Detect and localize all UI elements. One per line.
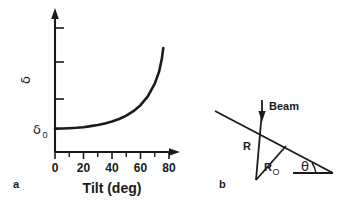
delta-zero-subscript: 0 bbox=[42, 130, 47, 140]
y-axis bbox=[51, 8, 59, 152]
y-axis-title: δ bbox=[18, 76, 33, 84]
y-axis-ticks bbox=[55, 28, 64, 99]
x-tick-label-60: 60 bbox=[134, 161, 148, 175]
delta-zero-label: δ 0 bbox=[33, 122, 47, 140]
beam-label: Beam bbox=[269, 100, 299, 112]
x-axis-title: Tilt (deg) bbox=[83, 180, 142, 196]
y-axis-arrowhead bbox=[51, 8, 59, 19]
radius-label: R bbox=[243, 140, 251, 152]
specimen-tilt-line bbox=[215, 111, 333, 173]
panel-label-a: a bbox=[13, 178, 19, 190]
delta-zero-symbol: δ bbox=[33, 122, 41, 137]
panel-b-diagram: Beam R R O θ bbox=[190, 0, 338, 204]
diagram-svg: Beam R R O θ bbox=[190, 0, 338, 204]
x-tick-label-0: 0 bbox=[52, 161, 59, 175]
angle-label-theta: θ bbox=[301, 159, 309, 174]
vertical-radius-line bbox=[256, 111, 262, 180]
panel-label-b: b bbox=[219, 178, 226, 190]
x-tick-label-40: 40 bbox=[105, 161, 119, 175]
x-axis-arrowhead bbox=[169, 148, 180, 156]
radius-zero-label: R O bbox=[264, 161, 279, 177]
panel-a-chart: 0 20 40 60 80 Tilt (deg) δ δ 0 bbox=[0, 0, 190, 204]
chart-svg: 0 20 40 60 80 Tilt (deg) δ δ 0 bbox=[0, 0, 190, 204]
x-tick-label-80: 80 bbox=[162, 161, 176, 175]
data-curve-delta-vs-tilt bbox=[55, 48, 163, 129]
figure-root: 0 20 40 60 80 Tilt (deg) δ δ 0 bbox=[0, 0, 338, 204]
radius-zero-subscript: O bbox=[272, 167, 279, 177]
radius-zero-symbol: R bbox=[264, 161, 272, 173]
x-tick-label-20: 20 bbox=[77, 161, 91, 175]
x-axis bbox=[55, 148, 180, 156]
